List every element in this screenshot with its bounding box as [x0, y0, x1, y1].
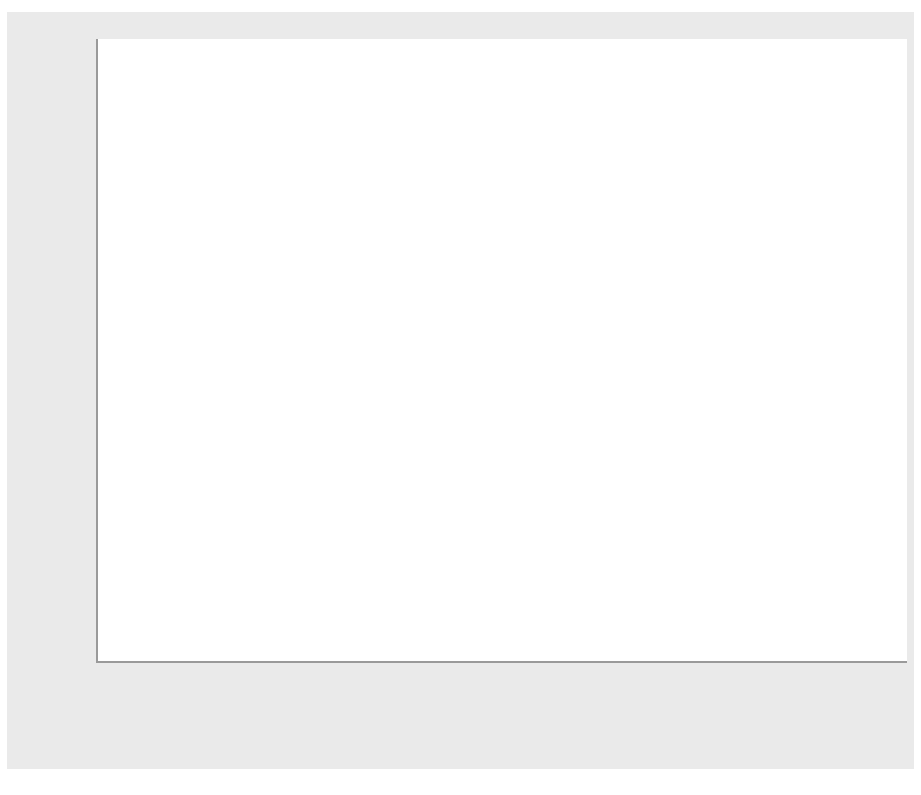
bar-chart-figure — [0, 0, 921, 795]
x-axis-line — [96, 661, 907, 663]
x-axis-labels-container — [96, 668, 907, 778]
bars-container — [96, 39, 907, 661]
